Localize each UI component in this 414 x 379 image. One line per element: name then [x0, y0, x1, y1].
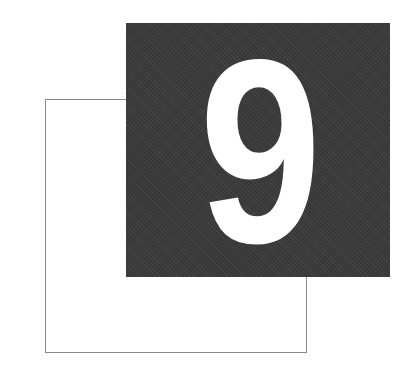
chapter-number-block: 9 [126, 23, 390, 277]
chapter-number: 9 [199, 25, 317, 277]
